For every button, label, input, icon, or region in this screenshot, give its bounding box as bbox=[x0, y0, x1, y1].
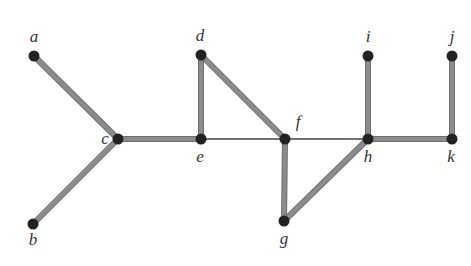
node-label-h: h bbox=[364, 147, 373, 166]
node-h bbox=[363, 134, 374, 145]
node-e bbox=[196, 134, 207, 145]
edges-layer bbox=[33, 55, 452, 224]
node-j bbox=[447, 51, 458, 62]
node-d bbox=[196, 50, 207, 61]
node-label-a: a bbox=[30, 27, 39, 46]
node-label-g: g bbox=[280, 229, 289, 248]
node-label-e: e bbox=[196, 147, 204, 166]
node-label-j: j bbox=[448, 27, 455, 46]
node-g bbox=[279, 216, 290, 227]
edge-b-c bbox=[33, 139, 118, 224]
node-label-c: c bbox=[101, 129, 109, 148]
node-label-d: d bbox=[196, 26, 205, 45]
graph-diagram: abcdefghijk bbox=[0, 0, 471, 266]
node-label-k: k bbox=[447, 147, 455, 166]
node-label-i: i bbox=[366, 27, 371, 46]
node-k bbox=[447, 134, 458, 145]
edge-f-g bbox=[284, 139, 285, 221]
node-label-b: b bbox=[29, 230, 38, 249]
edge-g-h bbox=[284, 139, 368, 221]
node-b bbox=[28, 219, 39, 230]
node-label-f: f bbox=[296, 112, 303, 131]
edge-a-c bbox=[34, 56, 118, 139]
node-c bbox=[113, 134, 124, 145]
edge-d-f bbox=[201, 55, 285, 139]
node-i bbox=[363, 51, 374, 62]
node-f bbox=[280, 134, 291, 145]
node-a bbox=[29, 51, 40, 62]
